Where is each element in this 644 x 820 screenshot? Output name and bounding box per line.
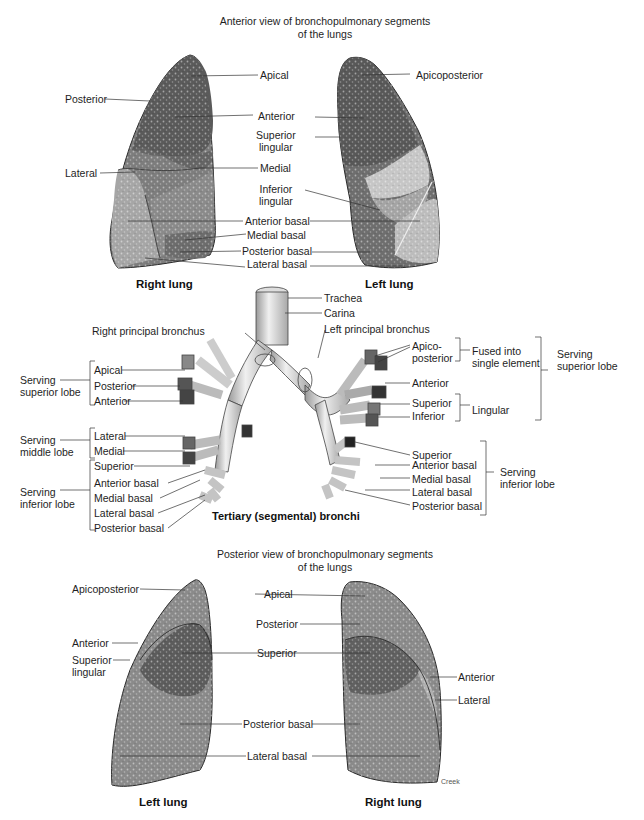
label-trachea: Trachea [324,292,362,304]
label-lateral-basal: Lateral basal [247,258,307,270]
right-inferior-group: Serving inferior lobe [20,486,75,510]
bronchi-caption: Tertiary (segmental) bronchi [212,510,360,522]
post-left-apicoposterior: Apicoposterior [72,583,139,595]
left-medial-basal: Medial basal [412,473,471,485]
right-superior: Superior [94,460,134,472]
left-superior-group: Serving superior lobe [557,348,618,372]
posterior-right-lung [341,582,441,784]
artist-signature: Creek [441,778,460,785]
label-apicoposterior: Apicoposterior [416,69,483,81]
label-superior-lingular: Superior lingular [256,129,296,153]
label-lateral: Lateral [65,167,97,179]
label-carina: Carina [324,307,355,319]
right-posterior-basal: Posterior basal [94,522,164,534]
label-posterior-basal: Posterior basal [242,245,312,257]
posterior-left-lung-caption: Left lung [139,796,188,808]
left-inferior-group: Serving inferior lobe [500,466,555,490]
right-medial: Medial [94,445,125,457]
left-anterior-basal: Anterior basal [412,459,477,471]
anterior-right-lung-caption: Right lung [136,278,193,290]
left-fused: Fused into single element [472,345,540,369]
posterior-view-title: Posterior view of bronchopulmonary segme… [170,548,480,573]
anatomy-illustration [0,0,644,820]
anterior-left-lung-caption: Left lung [365,278,414,290]
left-apicoposterior: Apico- posterior [412,340,453,364]
right-lateral-basal: Lateral basal [94,507,154,519]
right-medial-basal: Medial basal [94,492,153,504]
post-right-lateral: Lateral [458,694,490,706]
post-posterior-basal: Posterior basal [243,718,313,730]
left-lateral-basal: Lateral basal [412,486,472,498]
post-lateral-basal: Lateral basal [247,750,307,762]
post-right-anterior: Anterior [458,671,495,683]
post-left-superior-lingular: Superior lingular [72,654,112,678]
label-apical: Apical [260,69,289,81]
label-anterior-basal: Anterior basal [245,215,310,227]
posterior-right-lung-caption: Right lung [365,796,422,808]
anterior-right-lung [110,55,215,268]
label-inferior-lingular: Inferior lingular [259,183,293,207]
right-posterior: Posterior [94,380,136,392]
anterior-view-title: Anterior view of bronchopulmonary segmen… [170,15,480,40]
left-anterior: Anterior [412,377,449,389]
right-middle-group: Serving middle lobe [20,434,74,458]
posterior-left-lung [112,580,213,787]
post-posterior: Posterior [256,618,298,630]
left-lingular-group: Lingular [472,404,509,416]
left-posterior-basal: Posterior basal [412,500,482,512]
left-lingular-inferior: Inferior [412,410,445,422]
right-anterior-basal: Anterior basal [94,477,159,489]
bronchial-tree [178,287,387,500]
label-anterior: Anterior [258,110,295,122]
label-right-principal-bronchus: Right principal bronchus [92,325,205,337]
label-posterior: Posterior [65,93,107,105]
post-apical: Apical [264,588,293,600]
label-left-principal-bronchus: Left principal bronchus [324,323,430,335]
right-apical: Apical [94,364,123,376]
label-medial: Medial [260,162,291,174]
label-medial-basal: Medial basal [247,229,306,241]
left-lingular-superior: Superior [412,397,452,409]
right-lateral: Lateral [94,430,126,442]
right-superior-group: Serving superior lobe [20,374,81,398]
right-anterior: Anterior [94,395,131,407]
post-superior: Superior [257,647,297,659]
anterior-left-lung [338,57,440,268]
post-left-anterior: Anterior [72,637,109,649]
